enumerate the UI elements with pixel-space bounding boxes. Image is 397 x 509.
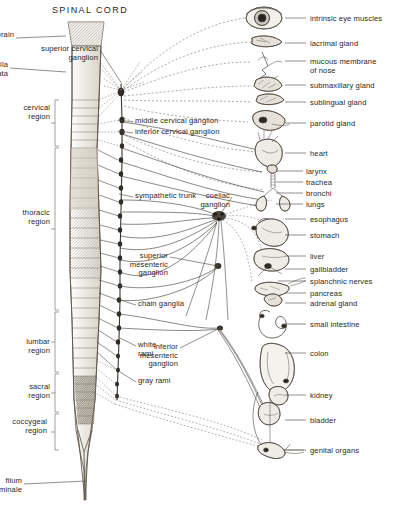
cord-structure-filum-terminale: filum terminale (0, 477, 22, 494)
label-mucous-membrane-nose: mucous membrane of nose (310, 58, 377, 75)
cord-structure-medulla: medulla oblongata (0, 61, 8, 78)
diagram-page: SPINAL CORD midbrainmedulla oblongatafil… (0, 0, 397, 509)
label-inferior-cervical-ganglion: inferior cervical ganglion (135, 128, 220, 137)
anatomy-illustration (0, 0, 397, 509)
cord-region-coccygeal: coccygeal region (12, 418, 47, 435)
label-coeliac-ganglion: coeliac ganglion (200, 192, 230, 209)
kidney-sketch (269, 386, 288, 404)
lacrimal-gland-sketch (252, 36, 282, 47)
prevertebral-ganglia (115, 200, 272, 450)
label-sublingual-gland: sublingual gland (310, 99, 367, 108)
label-chain-ganglia: chain ganglia (138, 300, 184, 309)
label-heart: heart (310, 150, 328, 159)
stomach-sketch (252, 218, 289, 246)
colon-sketch (260, 343, 294, 392)
label-bladder: bladder (310, 417, 336, 426)
sympathetic-trunk-chain (94, 62, 144, 404)
label-intrinsic-eye-muscles: intrinsic eye muscles (310, 15, 382, 24)
label-submaxillary-gland: submaxillary gland (310, 82, 375, 91)
genital-organs-sketch (258, 443, 304, 459)
liver-sketch (254, 249, 289, 276)
label-esophagus: esophagus (310, 216, 348, 225)
parasympathetic-pathways (122, 18, 264, 190)
label-stomach: stomach (310, 232, 339, 241)
label-gray-rami: gray rami (138, 377, 171, 386)
label-kidney: kidney (310, 392, 333, 401)
submaxillary-gland-sketch (254, 77, 282, 91)
label-parotid-gland: parotid gland (310, 120, 355, 129)
label-superior-cervical-ganglion: superior cervical ganglion (41, 45, 98, 62)
cord-region-lumbar: lumbar region (26, 338, 50, 355)
label-inferior-mesenteric-ganglion: inferior mesenteric ganglion (140, 343, 178, 369)
heart-sketch (255, 130, 282, 167)
cord-region-cervical: cervical region (23, 104, 50, 121)
label-superior-mesenteric-ganglion: superior mesenteric ganglion (130, 252, 168, 278)
nose-sketch (258, 52, 282, 79)
page-title: SPINAL CORD (0, 5, 180, 15)
label-middle-cervical-ganglion: middle cervical ganglion (135, 117, 218, 126)
label-bronchi: bronchi (306, 190, 332, 199)
label-liver: liver (310, 253, 324, 262)
label-lacrimal-gland: lacrimal gland (310, 40, 358, 49)
cord-region-sacral: sacral region (28, 383, 50, 400)
label-pancreas: pancreas (310, 290, 342, 299)
label-lungs: lungs (306, 201, 325, 210)
label-larynx: larynx (306, 168, 327, 177)
spinal-cord-body (68, 22, 104, 500)
organ-sketches (246, 7, 306, 459)
adrenal-gland-sketch (264, 294, 282, 306)
label-small-intestine: small intestine (310, 321, 360, 330)
sublingual-gland-sketch (256, 94, 284, 105)
label-colon: colon (310, 350, 329, 359)
label-adrenal-gland: adrenal gland (310, 300, 357, 309)
label-splanchnic-nerves: splanchnic nerves (310, 278, 372, 287)
small-intestine-sketch (259, 310, 287, 338)
label-trachea: trachea (306, 179, 332, 188)
label-gallbladder: gallbladder (310, 266, 348, 275)
cord-region-thoracic: thoracic region (23, 209, 50, 226)
label-genital-organs: genital organs (310, 447, 359, 456)
eye-sketch (246, 7, 282, 29)
label-sympathetic-trunk: sympathetic trunk (135, 192, 196, 201)
cord-structure-midbrain: midbrain (0, 31, 14, 40)
parotid-gland-sketch (253, 111, 290, 131)
